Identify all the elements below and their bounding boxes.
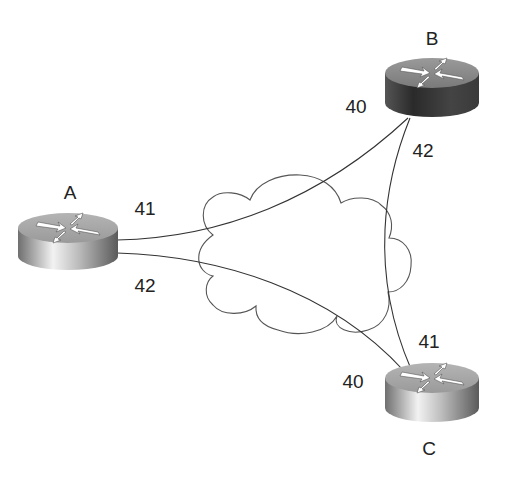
port-label-c-to-a: 40 bbox=[342, 372, 363, 391]
router-b-label: B bbox=[426, 29, 439, 48]
router-c[interactable] bbox=[385, 363, 479, 422]
link-b-c bbox=[385, 118, 411, 369]
port-label-b-to-a: 40 bbox=[345, 97, 366, 116]
port-label-a-to-b: 41 bbox=[134, 199, 155, 218]
network-diagram bbox=[0, 0, 510, 477]
link-a-c bbox=[117, 253, 404, 371]
port-label-c-to-b: 41 bbox=[418, 332, 439, 351]
router-b[interactable] bbox=[385, 58, 479, 117]
link-a-b bbox=[117, 118, 408, 240]
links bbox=[117, 118, 411, 371]
port-label-a-to-c: 42 bbox=[134, 276, 155, 295]
port-label-b-to-c: 42 bbox=[412, 141, 433, 160]
router-c-label: C bbox=[422, 439, 436, 458]
router-a[interactable] bbox=[18, 213, 118, 270]
wan-cloud bbox=[199, 175, 412, 334]
router-a-label: A bbox=[64, 183, 77, 202]
